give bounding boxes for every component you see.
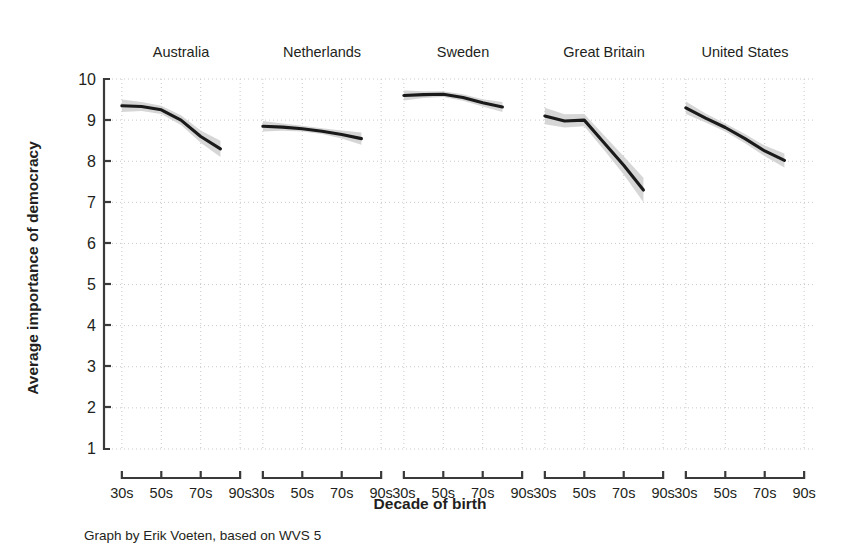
small-multiples-line-chart: Average importance of democracy 10 9 8 7… bbox=[0, 0, 848, 560]
panel-title: Australia bbox=[153, 44, 210, 60]
chart-background bbox=[0, 0, 848, 560]
panel-title: Great Britain bbox=[563, 44, 644, 60]
chart-caption: Graph by Erik Voeten, based on WVS 5 bbox=[84, 528, 321, 543]
y-tick-3: 3 bbox=[87, 358, 96, 375]
y-tick-9: 9 bbox=[87, 112, 96, 129]
y-tick-1: 1 bbox=[87, 440, 96, 457]
x-axis-title: Decade of birth bbox=[374, 495, 487, 512]
y-tick-5: 5 bbox=[87, 276, 96, 293]
x-tick-label-50s: 50s bbox=[573, 485, 596, 501]
x-tick-label-70s: 70s bbox=[189, 485, 212, 501]
x-tick-label-70s: 70s bbox=[753, 485, 776, 501]
x-tick-label-30s: 30s bbox=[674, 485, 697, 501]
x-tick-label-50s: 50s bbox=[714, 485, 737, 501]
chart-figure: Average importance of democracy 10 9 8 7… bbox=[0, 0, 848, 560]
x-tick-label-30s: 30s bbox=[533, 485, 556, 501]
panel-title: Sweden bbox=[437, 44, 489, 60]
x-tick-label-30s: 30s bbox=[110, 485, 133, 501]
y-tick-4: 4 bbox=[87, 317, 96, 334]
y-tick-10: 10 bbox=[78, 71, 96, 88]
x-tick-label-30s: 30s bbox=[251, 485, 274, 501]
x-tick-label-90s: 90s bbox=[510, 485, 533, 501]
y-axis-title: Average importance of democracy bbox=[24, 141, 41, 395]
x-tick-label-90s: 90s bbox=[792, 485, 815, 501]
x-tick-label-90s: 90s bbox=[651, 485, 674, 501]
x-tick-label-50s: 50s bbox=[291, 485, 314, 501]
y-tick-2: 2 bbox=[87, 399, 96, 416]
y-tick-8: 8 bbox=[87, 153, 96, 170]
y-tick-6: 6 bbox=[87, 235, 96, 252]
panel-title: Netherlands bbox=[283, 44, 361, 60]
x-tick-label-70s: 70s bbox=[330, 485, 353, 501]
panel-title: United States bbox=[701, 44, 788, 60]
x-tick-label-90s: 90s bbox=[228, 485, 251, 501]
x-tick-label-70s: 70s bbox=[612, 485, 635, 501]
y-tick-7: 7 bbox=[87, 194, 96, 211]
x-tick-label-50s: 50s bbox=[150, 485, 173, 501]
